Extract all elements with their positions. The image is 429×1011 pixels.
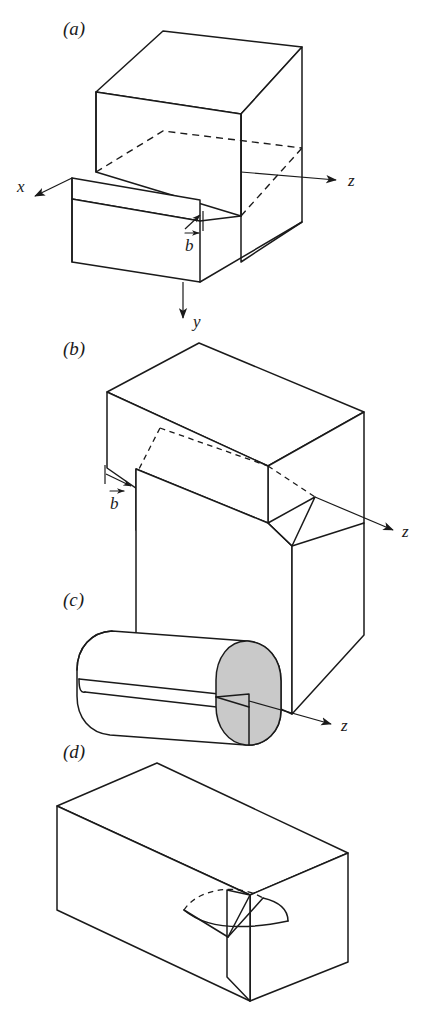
axis-z-label: z [347, 171, 355, 190]
panel-d-label: (d) [63, 741, 85, 763]
axis-x-line [35, 178, 72, 196]
panel-a: (a) x [16, 18, 355, 331]
axis-x-label: x [16, 177, 25, 196]
step-inner-right-edge [200, 216, 241, 221]
axis-z-label-c: z [340, 716, 348, 735]
axis-y-label: y [191, 312, 201, 331]
axis-z-label-b: z [401, 522, 409, 541]
panel-c-label: (c) [63, 589, 84, 611]
panel-a-label: (a) [63, 18, 85, 40]
panel-d: (d) [57, 741, 348, 1001]
dislocation-figure: (a) x [0, 0, 429, 1011]
burgers-label-a: b [185, 236, 194, 255]
burgers-label-b: b [110, 494, 119, 513]
panel-b-label: (b) [63, 338, 85, 360]
block-b-lower-right-face [292, 523, 364, 714]
figure-root: (a) x [0, 0, 429, 1011]
